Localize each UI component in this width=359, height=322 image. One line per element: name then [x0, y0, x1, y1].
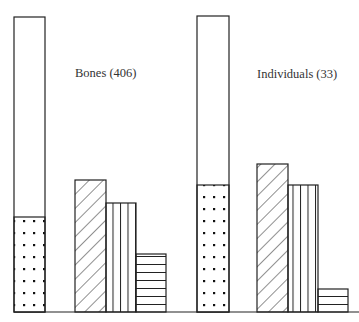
- individuals-vertical-bar: [288, 185, 318, 312]
- bar-chart: Bones (406) Individuals (33): [0, 0, 359, 322]
- group-individuals: Individuals (33): [197, 16, 348, 312]
- group-bones: Bones (406): [14, 17, 166, 312]
- bones-horizontal-bar: [136, 254, 166, 312]
- individuals-horizontal-bar: [318, 289, 348, 312]
- individuals-diagonal-bar: [257, 164, 288, 312]
- bones-vertical-bar: [106, 203, 136, 312]
- bones-label: Bones (406): [75, 66, 136, 80]
- individuals-dotted-segment: [197, 185, 229, 312]
- bones-dotted-segment: [14, 217, 45, 312]
- bones-diagonal-bar: [75, 180, 106, 312]
- individuals-label: Individuals (33): [257, 67, 337, 81]
